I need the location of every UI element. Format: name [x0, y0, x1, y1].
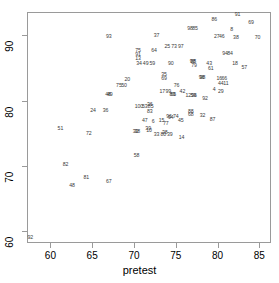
data-point-label: 67: [106, 180, 112, 185]
data-point-label: 4: [213, 88, 216, 93]
data-point-label: 45: [178, 118, 184, 123]
data-point-label: 87: [210, 117, 216, 122]
data-point-label: 42: [180, 89, 186, 94]
data-point-label: 8: [230, 27, 233, 32]
data-point-label: 29: [218, 90, 224, 95]
data-point-label: 37: [154, 34, 160, 39]
data-point-label: 34: [136, 62, 142, 67]
x-axis-tick: [50, 243, 51, 248]
y-axis-tick: [22, 101, 27, 102]
x-axis-tick-label: 75: [170, 250, 181, 261]
data-point-label: 17: [160, 89, 166, 94]
data-point-label: 38: [162, 130, 168, 135]
y-axis-tick-label: 80: [4, 106, 15, 117]
data-point-label: 91: [235, 13, 241, 18]
data-point-label: 38: [233, 35, 239, 40]
data-point-label: 13: [135, 56, 141, 61]
data-point-label: 51: [58, 127, 64, 132]
data-point-label: 65: [170, 92, 176, 97]
data-point-label: 49: [143, 62, 149, 67]
data-point-label: 81: [84, 175, 90, 180]
x-axis-tick: [92, 243, 93, 248]
scatter-plot-figure: 9248828167517258243648497550209310053368…: [0, 0, 279, 283]
data-point-label: 82: [63, 163, 69, 168]
data-point-label: 47: [142, 118, 148, 123]
data-point-label: 69: [161, 76, 167, 81]
data-point-label: 38: [135, 129, 141, 134]
data-point-label: 46: [219, 35, 225, 40]
x-axis-title: pretest: [0, 264, 279, 276]
data-point-label: 50: [121, 83, 127, 88]
y-axis-tick-label: 90: [4, 41, 15, 52]
x-axis-tick: [218, 243, 219, 248]
x-axis-tick-label: 70: [128, 250, 139, 261]
data-point-label: 64: [151, 48, 157, 53]
y-axis-tick-label: 70: [4, 172, 15, 183]
data-point-label: 73: [171, 44, 177, 49]
data-point-label: 24: [90, 109, 96, 114]
data-point-label: 98: [200, 75, 206, 80]
data-point-label: 86: [211, 17, 217, 22]
data-point-label: 11: [223, 82, 228, 87]
data-point-label: 76: [174, 83, 180, 88]
data-point-label: 79: [191, 63, 197, 68]
data-point-label: 70: [255, 35, 261, 40]
data-point-label: 25: [165, 44, 171, 49]
data-point-label: 48: [69, 183, 75, 188]
data-point-label: 33: [154, 132, 160, 137]
data-point-label: 93: [106, 35, 112, 40]
y-axis-tick: [22, 166, 27, 167]
data-point-label: 68: [188, 112, 194, 117]
data-point-label: 92: [28, 236, 34, 241]
data-point-label: 32: [200, 114, 206, 119]
x-axis-tick-label: 80: [212, 250, 223, 261]
data-point-label: 6: [152, 119, 155, 124]
x-axis-tick: [259, 243, 260, 248]
x-axis-tick: [134, 243, 135, 248]
data-point-label: 96: [191, 93, 197, 98]
data-point-label: 20: [124, 77, 130, 82]
data-point-label: 49: [107, 92, 113, 97]
data-point-label: 59: [150, 62, 156, 67]
y-axis-tick: [22, 231, 27, 232]
x-axis-tick-label: 60: [45, 250, 56, 261]
data-point-label: 90: [168, 62, 174, 67]
data-point-label: 83: [147, 109, 153, 114]
data-point-label: 10: [146, 128, 152, 133]
data-point-label: 92: [202, 97, 208, 102]
data-point-label: 84: [227, 51, 233, 56]
data-point-label: 14: [179, 135, 185, 140]
x-axis-tick: [176, 243, 177, 248]
data-point-label: 18: [232, 62, 238, 67]
data-point-label: 61: [208, 66, 214, 71]
x-axis-tick-label: 85: [254, 250, 265, 261]
data-point-label: 72: [86, 131, 92, 136]
data-point-label: 58: [134, 154, 140, 159]
data-point-label: 36: [103, 109, 109, 114]
data-point-label: 69: [248, 20, 254, 25]
x-axis-tick-label: 65: [87, 250, 98, 261]
y-axis-tick-label: 60: [4, 237, 15, 248]
data-point-label: 57: [241, 66, 247, 71]
y-axis-tick: [22, 35, 27, 36]
data-point-label: 97: [178, 44, 184, 49]
data-point-label: 77: [163, 121, 169, 126]
data-point-label: 85: [192, 26, 198, 31]
